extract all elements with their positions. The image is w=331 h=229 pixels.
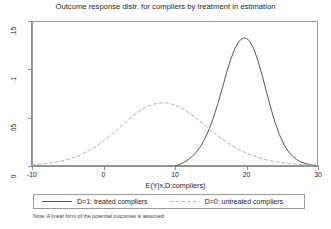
- y-tick-mark: [28, 166, 31, 167]
- y-tick-mark: [28, 118, 31, 119]
- y-tick-label: .1: [10, 69, 17, 91]
- legend-item-untreated: D=0: untreated compliers: [170, 195, 283, 208]
- y-tick-label: 0: [10, 166, 17, 188]
- chart-title: Outcome response distr. for compliers by…: [0, 2, 331, 12]
- x-tick-label: 20: [234, 171, 260, 178]
- x-tick-label: 10: [162, 171, 188, 178]
- y-tick-mark: [28, 69, 31, 70]
- x-tick-label: -10: [19, 171, 45, 178]
- x-tick-mark: [104, 167, 105, 170]
- x-tick-mark: [175, 167, 176, 170]
- x-tick-label: 0: [91, 171, 117, 178]
- y-axis-line: [31, 21, 32, 167]
- chart-legend: D=1: treated compliers D=0: untreated co…: [33, 194, 305, 209]
- legend-dashed-line-icon: [170, 198, 200, 205]
- chart-figure: Outcome response distr. for compliers by…: [0, 0, 331, 229]
- legend-solid-line-icon: [42, 198, 72, 205]
- legend-item-treated: D=1: treated compliers: [42, 195, 148, 208]
- x-tick-mark: [247, 167, 248, 170]
- series-line-2: [32, 103, 318, 166]
- y-tick-label: .15: [10, 21, 17, 43]
- chart-note: Note: A linear form of the potential out…: [33, 213, 164, 219]
- x-tick-label: 30: [305, 171, 331, 178]
- plot-curves: [32, 21, 318, 166]
- y-tick-label: .05: [10, 117, 17, 139]
- x-tick-mark: [318, 167, 319, 170]
- x-axis-title: E(Y|x,D;compliers): [32, 181, 319, 190]
- legend-label-treated: D=1: treated compliers: [77, 198, 148, 205]
- legend-label-untreated: D=0: untreated compliers: [205, 198, 283, 205]
- y-tick-mark: [28, 21, 31, 22]
- x-tick-mark: [32, 167, 33, 170]
- series-line-1: [175, 38, 318, 166]
